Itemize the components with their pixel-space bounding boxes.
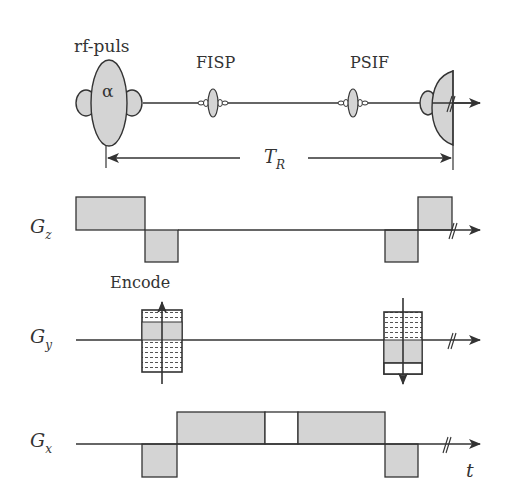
gx-dephase-lobe (142, 444, 177, 477)
rf-alpha-pulse: α (76, 60, 142, 146)
gy-phase-encode-table (142, 302, 182, 384)
rf-row: rf-puls α FISP PSIF (74, 36, 480, 172)
gz-rephase-lobe (145, 230, 178, 262)
gx-readout-lobe-left (177, 412, 265, 444)
gz-slice-select-lobe (76, 197, 145, 230)
gx-readout-lobe-right (298, 412, 385, 444)
flip-angle-label: α (102, 81, 114, 101)
gz-prephase-lobe (385, 230, 418, 262)
fisp-echo: FISP (196, 53, 235, 117)
pulse-sequence-diagram: rf-puls α FISP PSIF (0, 0, 511, 497)
fisp-label: FISP (196, 53, 235, 72)
psif-label: PSIF (350, 53, 389, 72)
gx-row: Gx t (30, 412, 480, 481)
tr-label: TR (264, 146, 285, 172)
next-rf-pulse (420, 71, 480, 145)
gx-rephase-lobe (385, 444, 418, 477)
gz-next-slice-lobe (418, 197, 452, 230)
gy-rewinder-table (384, 298, 422, 384)
gx-label: Gx (30, 429, 52, 456)
encode-label: Encode (110, 273, 170, 292)
time-label: t (466, 459, 474, 481)
gz-label: Gz (30, 215, 52, 242)
gy-label: Gy (30, 325, 52, 352)
gy-row: Encode Gy (30, 273, 480, 384)
gx-readout-center (265, 412, 298, 444)
gz-row: Gz (30, 197, 480, 262)
psif-echo: PSIF (338, 53, 389, 117)
rf-label: rf-puls (74, 36, 130, 56)
